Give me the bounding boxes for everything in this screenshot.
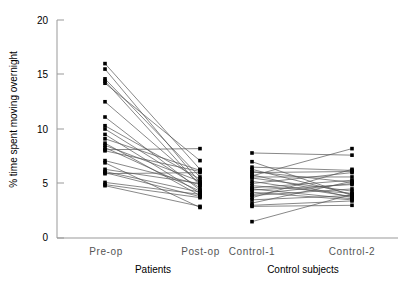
data-connector-line bbox=[252, 201, 352, 205]
data-point-marker bbox=[350, 187, 354, 191]
data-point-marker bbox=[103, 161, 107, 165]
data-point-marker bbox=[198, 205, 202, 209]
data-point-marker bbox=[198, 147, 202, 151]
chart-figure: % time spent moving overnight 20 15 10 5… bbox=[0, 0, 403, 288]
data-point-marker bbox=[350, 180, 354, 184]
data-connector-line bbox=[105, 139, 200, 171]
data-point-marker bbox=[103, 137, 107, 141]
data-connector-line bbox=[252, 167, 352, 170]
data-connector-line bbox=[252, 153, 352, 155]
data-connector-line bbox=[252, 194, 352, 221]
data-point-marker bbox=[250, 205, 254, 209]
data-point-marker bbox=[103, 62, 107, 66]
data-point-marker bbox=[103, 100, 107, 104]
data-point-marker bbox=[198, 171, 202, 175]
data-point-marker bbox=[198, 193, 202, 197]
data-point-marker bbox=[250, 151, 254, 155]
data-point-marker bbox=[350, 168, 354, 172]
data-point-marker bbox=[350, 193, 354, 197]
data-point-marker bbox=[103, 81, 107, 85]
data-point-marker bbox=[103, 115, 107, 119]
data-point-marker bbox=[250, 176, 254, 180]
data-point-marker bbox=[250, 198, 254, 202]
data-point-marker bbox=[103, 124, 107, 128]
data-point-marker bbox=[103, 133, 107, 137]
data-point-marker bbox=[250, 220, 254, 224]
data-point-marker bbox=[250, 160, 254, 164]
data-connector-line bbox=[252, 180, 352, 188]
data-point-marker bbox=[350, 175, 354, 179]
data-connector-line bbox=[105, 129, 200, 188]
data-point-marker bbox=[350, 147, 354, 151]
data-point-marker bbox=[198, 196, 202, 200]
plot-area bbox=[0, 0, 403, 288]
data-point-marker bbox=[350, 171, 354, 175]
data-point-marker bbox=[103, 127, 107, 131]
data-point-marker bbox=[350, 153, 354, 157]
data-point-marker bbox=[350, 204, 354, 208]
data-series-layer bbox=[103, 62, 354, 224]
data-point-marker bbox=[103, 172, 107, 176]
data-connector-line bbox=[252, 205, 352, 206]
data-point-marker bbox=[198, 182, 202, 186]
data-point-marker bbox=[198, 186, 202, 190]
data-point-marker bbox=[350, 199, 354, 203]
data-point-marker bbox=[198, 159, 202, 163]
data-point-marker bbox=[103, 67, 107, 71]
data-point-marker bbox=[103, 184, 107, 188]
data-point-marker bbox=[103, 149, 107, 153]
